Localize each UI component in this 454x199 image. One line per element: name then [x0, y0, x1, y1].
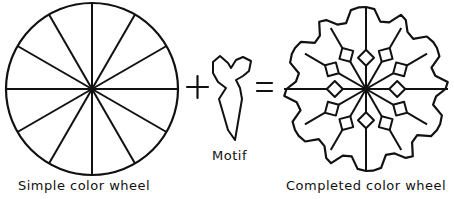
completed-color-wheel: [284, 7, 448, 171]
simple-color-wheel: [6, 3, 178, 175]
plus-sign: [187, 76, 208, 98]
completed-wheel-label: Completed color wheel: [286, 178, 446, 193]
equals-sign: [257, 83, 272, 91]
simple-wheel-label: Simple color wheel: [18, 178, 150, 193]
motif-label: Motif: [212, 148, 247, 163]
diagram-canvas: [0, 0, 454, 199]
motif-shape: [213, 56, 251, 140]
